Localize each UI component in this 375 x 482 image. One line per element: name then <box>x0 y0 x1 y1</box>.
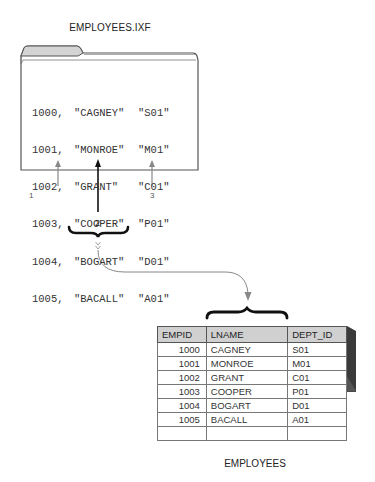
callout-label-3: 3 <box>150 191 154 200</box>
ixf-file-contents: 1000,"CAGNEY""S01" 1001,"MONROE""M01" 10… <box>32 82 170 318</box>
ixf-row: 1002,"GRANT""C01" <box>32 181 170 193</box>
table-row: 1004BOGARTD01 <box>158 399 347 413</box>
table-header-row: EMPID LNAME DEPT_ID <box>158 327 347 343</box>
table-caption: EMPLOYEES <box>200 458 310 469</box>
ixf-row: 1005,"BACALL""A01" <box>32 293 170 305</box>
ixf-row: 1004,"BOGART""D01" <box>32 256 170 268</box>
column-header-lname: LNAME <box>206 327 287 343</box>
ixf-row: 1000,"CAGNEY""S01" <box>32 107 170 119</box>
callout-label-2: 2 <box>95 218 100 228</box>
employees-table: EMPID LNAME DEPT_ID 1000CAGNEYS01 1001MO… <box>157 326 347 441</box>
brace-icon <box>207 308 287 318</box>
column-header-empid: EMPID <box>158 327 207 343</box>
table-row: 1005BACALLA01 <box>158 413 347 427</box>
callout-label-1: 1 <box>29 191 33 200</box>
table-row: 1003COOPERP01 <box>158 385 347 399</box>
table-row-empty <box>158 427 347 441</box>
table-row: 1001MONROEM01 <box>158 357 347 371</box>
column-header-dept-id: DEPT_ID <box>288 327 347 343</box>
table-row: 1002GRANTC01 <box>158 371 347 385</box>
ixf-row: 1003,"COOPER""P01" <box>32 218 170 230</box>
table-row: 1000CAGNEYS01 <box>158 343 347 357</box>
ixf-row: 1001,"MONROE""M01" <box>32 144 170 156</box>
